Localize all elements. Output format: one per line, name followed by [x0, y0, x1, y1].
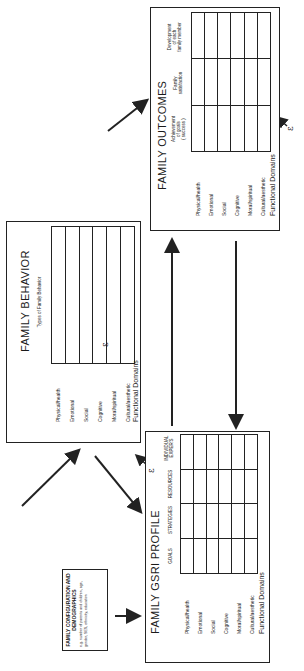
behavior-row-3: Cognitive: [97, 401, 103, 422]
gsri-title: FAMILY GSRI PROFILE: [149, 510, 161, 634]
diagram-canvas: FAMILY CONFIGURATION AND DEMOGRAPHICS e.…: [0, 0, 304, 671]
outcomes-col-development: Development of each family member: [167, 14, 183, 60]
behavior-row-0: Physical/health: [55, 388, 61, 422]
behavior-col-header: Types of Family Behavior: [37, 262, 42, 342]
gsri-row-2: Social: [210, 620, 216, 634]
gsri-row-1: Emotional: [197, 612, 203, 634]
outcomes-row-0: Physical/health: [195, 182, 201, 216]
arrow-gsri-to-behavior: [22, 451, 78, 506]
gsri-axis-label: Functional Domains: [258, 572, 265, 634]
family-configuration-box: FAMILY CONFIGURATION AND DEMOGRAPHICS e.…: [62, 569, 108, 651]
gsri-col-individual: INDIVIDUAL EXPER'S: [164, 430, 174, 466]
config-note: e.g. number of parents and children, age…: [79, 573, 88, 647]
epsilon-outcomes: ε: [285, 126, 295, 131]
gsri-row-5: Cultural/aesthetic: [249, 595, 255, 634]
gsri-col-strategies: STRATEGIES: [168, 502, 173, 538]
behavior-grid: [51, 226, 135, 364]
outcomes-title: FAMILY OUTCOMES: [156, 81, 168, 190]
config-title: FAMILY CONFIGURATION AND DEMOGRAPHICS: [65, 573, 77, 647]
epsilon-behavior: ε: [100, 342, 110, 347]
gsri-row-3: Cognitive: [223, 613, 229, 634]
epsilon-gsri: ε: [146, 468, 156, 473]
behavior-row-2: Social: [83, 408, 89, 422]
rotated-diagram: FAMILY CONFIGURATION AND DEMOGRAPHICS e.…: [0, 0, 304, 671]
outcomes-col-achievement: Achievement of goals ( success ): [171, 106, 187, 152]
gsri-grid: [180, 434, 258, 574]
family-outcomes-box: FAMILY OUTCOMES Achievement of goals ( s…: [150, 7, 280, 231]
behavior-row-5: Cultural/aesthetic: [125, 383, 131, 422]
gsri-profile-box: FAMILY GSRI PROFILE GOALS STRATEGIES RES…: [145, 431, 270, 663]
behavior-title: FAMILY BEHAVIOR: [19, 250, 31, 352]
outcomes-row-2: Social: [221, 202, 227, 216]
outcomes-row-4: Moral/spiritual: [247, 185, 253, 216]
outcomes-col-satisfaction: Family satisfaction: [173, 60, 183, 106]
behavior-row-4: Moral/spiritual: [111, 391, 117, 422]
outcomes-axis-label: Functional Domains: [269, 154, 276, 216]
gsri-row-4: Moral/spiritual: [236, 603, 242, 634]
outcomes-row-5: Cultural/aesthetic: [260, 177, 266, 216]
family-behavior-box: FAMILY BEHAVIOR Types of Family Behavior…: [6, 221, 141, 443]
gsri-col-resources: RESOURCES: [168, 466, 173, 502]
outcomes-grid: [191, 12, 271, 152]
arrow-behavior-to-outcomes: [108, 101, 146, 131]
outcomes-row-1: Emotional: [208, 194, 214, 216]
gsri-col-goals: GOALS: [168, 538, 173, 574]
arrow-behavior-to-gsri: [95, 456, 140, 511]
outcomes-row-3: Cognitive: [234, 195, 240, 216]
behavior-row-1: Emotional: [69, 400, 75, 422]
behavior-axis-label: Functional Domains: [132, 360, 139, 422]
gsri-row-0: Physical/health: [184, 600, 190, 634]
